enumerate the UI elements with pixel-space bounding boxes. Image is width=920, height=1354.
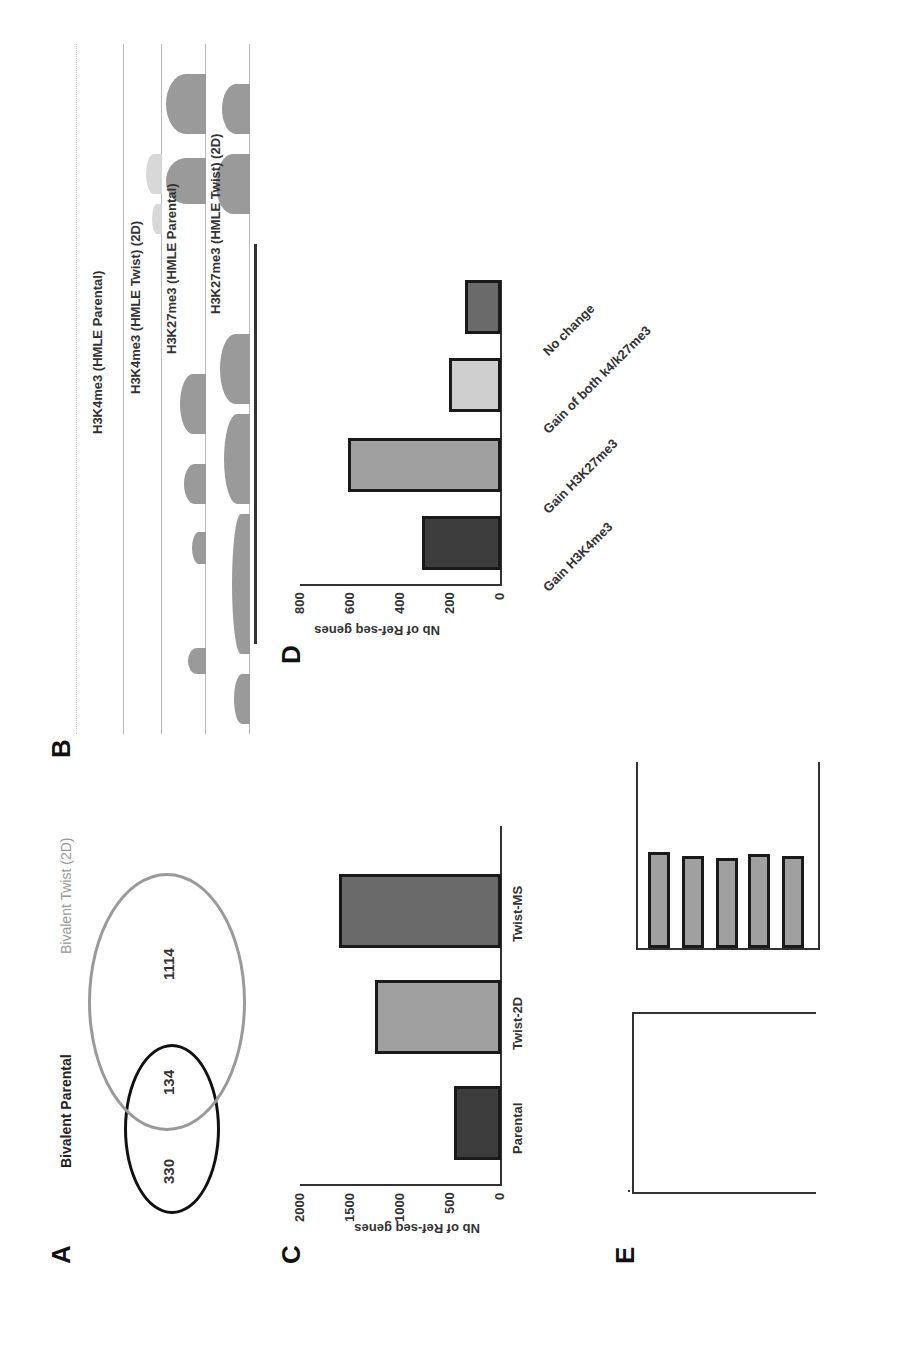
e-bar-cell-fate-commitment [648,852,670,948]
e-bar-cell-morphogenesis [716,858,738,948]
e-pvalue-axis-line [636,948,818,950]
ef-layer [0,0,920,1354]
e-value-axis-edge [818,762,820,950]
e-bar-positive-regulation-biosynthetic [682,856,704,948]
e-bar-axogenesis [748,854,770,948]
e-bar-neurone-development [782,856,804,948]
e-bars [638,762,816,948]
